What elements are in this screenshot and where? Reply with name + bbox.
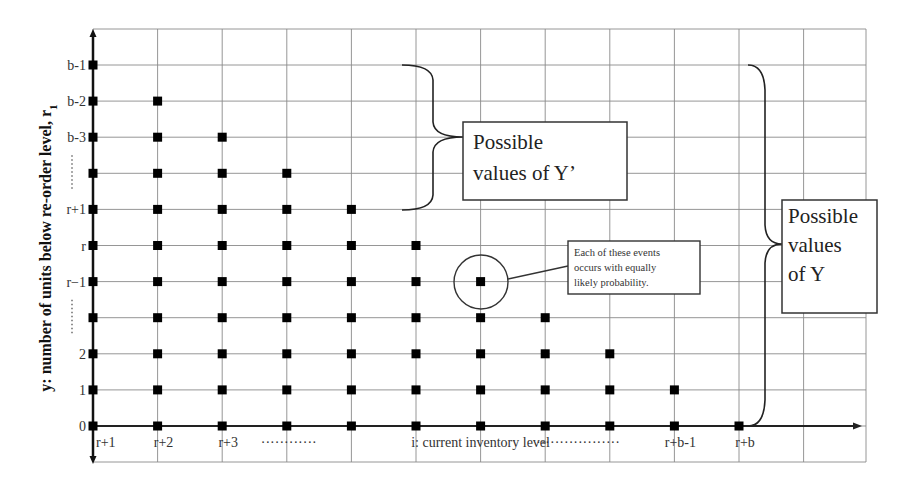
event-point — [153, 277, 162, 286]
event-point — [347, 385, 356, 394]
y-prime-box-line2: values of Y’ — [473, 161, 576, 185]
event-point — [153, 385, 162, 394]
event-point — [218, 277, 227, 286]
event-point — [218, 422, 227, 431]
event-point — [412, 349, 421, 358]
y-tick-label: r−1 — [66, 275, 86, 290]
event-point — [218, 205, 227, 214]
event-point — [670, 385, 679, 394]
y-tick-label: r — [81, 239, 86, 254]
event-point — [282, 241, 291, 250]
event-point — [670, 422, 679, 431]
event-point — [347, 277, 356, 286]
y-tick-label: b-2 — [67, 94, 86, 109]
event-point — [89, 97, 98, 106]
event-point — [89, 422, 98, 431]
event-point — [89, 349, 98, 358]
y-tick-label: 0 — [79, 419, 86, 434]
event-point — [153, 313, 162, 322]
grid-lines — [93, 29, 866, 462]
y-tick-label: 1 — [79, 383, 86, 398]
event-point — [89, 241, 98, 250]
event-point — [412, 313, 421, 322]
event-point — [282, 205, 291, 214]
y-tick-label: b-1 — [67, 58, 86, 73]
x-tick-label: r+3 — [218, 435, 238, 450]
event-point — [605, 385, 614, 394]
event-point — [218, 241, 227, 250]
y-axis-up-arrow-icon — [90, 29, 97, 37]
event-point — [541, 422, 550, 431]
diagram-canvas: 012r−1rr+1b-3b-2b-1 r+1r+2r+3···········… — [0, 0, 911, 496]
x-tick-label: r+1 — [96, 435, 116, 450]
event-point — [153, 133, 162, 142]
y-box-line1: Possible — [788, 204, 858, 228]
y-box-line3: of Y — [788, 262, 825, 286]
x-ellipsis: ·················· — [536, 435, 620, 450]
event-point — [153, 241, 162, 250]
event-point — [89, 205, 98, 214]
event-point — [347, 422, 356, 431]
event-point — [218, 313, 227, 322]
x-tick-label: r+b-1 — [665, 435, 696, 450]
callout-line2: occurs with equally — [574, 262, 657, 273]
event-point — [282, 277, 291, 286]
event-point — [218, 169, 227, 178]
x-axis-arrow-icon — [853, 423, 862, 430]
event-point — [476, 349, 485, 358]
event-point — [282, 422, 291, 431]
event-point — [218, 349, 227, 358]
event-point — [89, 61, 98, 70]
x-ellipsis: ············ — [261, 435, 317, 450]
event-point — [89, 385, 98, 394]
y-tick-label: b-3 — [67, 130, 86, 145]
event-point — [347, 205, 356, 214]
event-point — [476, 385, 485, 394]
y-tick-label: r+1 — [66, 202, 86, 217]
event-point — [89, 169, 98, 178]
event-point — [153, 205, 162, 214]
y-axis-tick-labels: 012r−1rr+1b-3b-2b-1 — [66, 58, 86, 434]
event-point — [153, 169, 162, 178]
event-point — [347, 313, 356, 322]
event-point — [89, 133, 98, 142]
callout-leader-line — [508, 266, 568, 279]
event-point — [153, 97, 162, 106]
event-point — [89, 277, 98, 286]
y-axis-down-arrow-icon — [90, 456, 97, 464]
event-point — [476, 313, 485, 322]
event-point — [282, 349, 291, 358]
event-point — [218, 133, 227, 142]
x-tick-label: r+2 — [154, 435, 174, 450]
event-point — [412, 385, 421, 394]
callout-line3: likely probability. — [574, 277, 649, 288]
event-point — [541, 385, 550, 394]
event-point — [476, 277, 485, 286]
y-axis-title: y: number of units below re-order level,… — [37, 104, 59, 391]
event-point — [347, 349, 356, 358]
event-point — [541, 349, 550, 358]
y-box-line2: values — [788, 233, 842, 257]
x-axis-title: i: current inventory level — [411, 435, 550, 450]
event-point — [153, 349, 162, 358]
event-point — [412, 277, 421, 286]
event-point — [412, 422, 421, 431]
event-point — [282, 313, 291, 322]
event-point — [89, 313, 98, 322]
event-point — [153, 422, 162, 431]
event-point — [605, 422, 614, 431]
event-point — [412, 241, 421, 250]
y-tick-label: 2 — [79, 347, 86, 362]
event-point — [347, 241, 356, 250]
axes — [90, 29, 863, 464]
event-point — [218, 385, 227, 394]
event-point — [541, 313, 550, 322]
callout-line1: Each of these events — [574, 247, 660, 258]
event-point — [476, 422, 485, 431]
event-point — [282, 169, 291, 178]
y-prime-box-line1: Possible — [473, 130, 543, 154]
x-axis-tick-labels: r+1r+2r+3············i: current inventor… — [96, 435, 755, 450]
x-tick-label: r+b — [735, 435, 755, 450]
event-point — [605, 349, 614, 358]
event-point — [735, 422, 744, 431]
